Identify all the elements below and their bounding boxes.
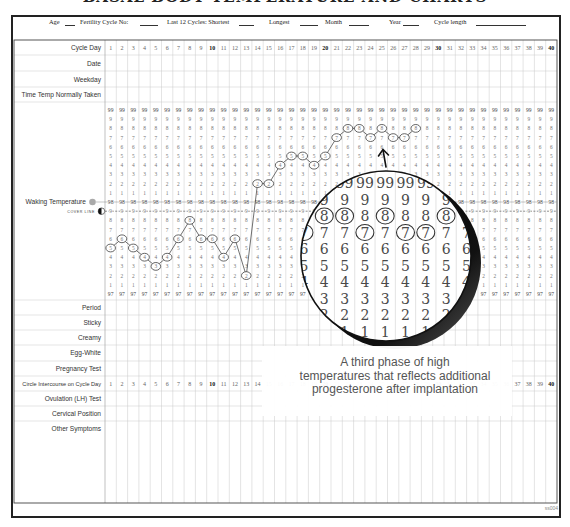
temp-scale-digit: 1: [245, 282, 248, 288]
temp-scale-digit: 5: [392, 153, 395, 159]
temp-scale-digit: 3: [166, 263, 169, 269]
temp-scale-digit: 99: [469, 107, 475, 113]
temp-scale-digit: 2: [121, 181, 124, 187]
temp-scale-digit: 3: [154, 263, 157, 269]
temp-scale-digit: 8: [166, 217, 169, 223]
temp-scale-digit: 2: [482, 273, 485, 279]
temp-scale-digit: 5: [188, 245, 191, 251]
temp-scale-digit: 2: [313, 181, 316, 187]
temp-scale-digit: 4: [132, 254, 135, 260]
temp-scale-digit: 8: [403, 125, 406, 131]
temp-scale-digit: 6: [121, 236, 124, 242]
temp-scale-digit: 5: [279, 245, 282, 251]
temp-scale-digit: 99: [119, 107, 125, 113]
magnified-digit: 5: [320, 258, 329, 274]
temp-scale-digit: 6: [143, 236, 146, 242]
temp-scale-digit: 5: [301, 153, 304, 159]
temp-scale-digit: 5: [493, 245, 496, 251]
temp-scale-digit: 5: [290, 153, 293, 159]
temp-scale-digit: 98: [503, 199, 509, 205]
temp-scale-digit: 6: [482, 144, 485, 150]
magnified-digit: 8: [381, 208, 390, 224]
temp-scale-digit: 6: [188, 144, 191, 150]
temp-scale-digit: 8: [154, 125, 157, 131]
cycle-day-number: 34: [481, 45, 487, 51]
temp-scale-digit: 1: [256, 282, 259, 288]
cycle-day-number: 4: [143, 45, 146, 51]
temp-scale-digit: 6: [493, 144, 496, 150]
temp-scale-digit: 9: [154, 208, 157, 214]
magnified-digit: 8: [401, 208, 410, 224]
temp-scale-digit: 2: [245, 273, 248, 279]
temp-scale-digit: 8: [493, 217, 496, 223]
temp-scale-digit: 3: [211, 171, 214, 177]
temp-scale-digit: 8: [177, 217, 180, 223]
temp-scale-digit: 1: [222, 282, 225, 288]
temp-scale-digit: 8: [471, 125, 474, 131]
temp-scale-digit: 97: [221, 291, 227, 297]
temp-scale-digit: 5: [460, 153, 463, 159]
temp-scale-digit: 8: [414, 125, 417, 131]
temp-scale-digit: 97: [176, 291, 182, 297]
temp-scale-digit: 8: [222, 125, 225, 131]
temp-scale-digit: 1: [516, 190, 519, 196]
temp-scale-digit: 4: [505, 254, 508, 260]
temp-scale-digit: 6: [301, 144, 304, 150]
temp-scale-digit: 4: [166, 254, 169, 260]
temp-scale-digit: 2: [290, 181, 293, 187]
temp-scale-digit: 4: [369, 162, 372, 168]
temp-scale-digit: 5: [358, 153, 361, 159]
magnified-digit: 3: [320, 291, 329, 307]
cycle-day-number: 3: [132, 45, 135, 51]
temp-scale-digit: 6: [234, 236, 237, 242]
temp-scale-digit: 9: [550, 208, 553, 214]
temp-scale-digit: 7: [426, 135, 429, 141]
row-label: Pregnancy Test: [56, 365, 101, 373]
temp-scale-digit: 8: [426, 125, 429, 131]
temp-scale-digit: 9: [505, 208, 508, 214]
temp-scale-digit: 7: [448, 135, 451, 141]
temp-scale-digit: 4: [482, 254, 485, 260]
temp-scale-digit: 6: [279, 144, 282, 150]
temp-scale-digit: 7: [527, 227, 530, 233]
temp-scale-digit: 2: [143, 273, 146, 279]
temp-scale-digit: 9: [369, 116, 372, 122]
cycle-day-number: 20: [322, 45, 328, 51]
temp-scale-digit: 1: [177, 190, 180, 196]
temp-scale-digit: 1: [493, 282, 496, 288]
temp-scale-digit: 4: [245, 162, 248, 168]
waking-temperature-label: Waking Temperature: [26, 198, 87, 206]
temp-scale-digit: 9: [380, 116, 383, 122]
intercourse-day-number: 13: [243, 381, 249, 387]
temp-scale-digit: 6: [550, 236, 553, 242]
temp-scale-digit: 9: [222, 208, 225, 214]
temp-scale-digit: 6: [279, 236, 282, 242]
temp-scale-digit: 98: [187, 199, 193, 205]
temp-scale-digit: 5: [234, 153, 237, 159]
temp-scale-digit: 5: [211, 153, 214, 159]
temp-scale-digit: 7: [200, 227, 203, 233]
temp-scale-digit: 3: [539, 263, 542, 269]
row-label: Egg-White: [70, 349, 101, 357]
temp-scale-digit: 1: [448, 190, 451, 196]
magnified-digit: 6: [360, 241, 369, 257]
cycle-day-number: 36: [503, 45, 509, 51]
temp-scale-digit: 1: [121, 190, 124, 196]
row-label: Cervical Position: [52, 410, 101, 417]
magnified-digit: 6: [421, 241, 430, 257]
temp-scale-digit: 9: [245, 116, 248, 122]
temp-scale-digit: 6: [335, 144, 338, 150]
temp-scale-digit: 8: [505, 125, 508, 131]
temp-scale-digit: 97: [255, 291, 261, 297]
temp-scale-digit: 9: [143, 116, 146, 122]
temp-scale-digit: 3: [482, 171, 485, 177]
temp-scale-digit: 8: [132, 125, 135, 131]
temp-scale-digit: 2: [154, 181, 157, 187]
temp-scale-digit: 2: [516, 181, 519, 187]
temp-scale-digit: 6: [448, 144, 451, 150]
temp-scale-digit: 4: [550, 254, 553, 260]
temp-scale-digit: 1: [154, 282, 157, 288]
temp-scale-digit: 1: [505, 282, 508, 288]
temp-scale-digit: 7: [200, 135, 203, 141]
temp-scale-digit: 7: [493, 227, 496, 233]
